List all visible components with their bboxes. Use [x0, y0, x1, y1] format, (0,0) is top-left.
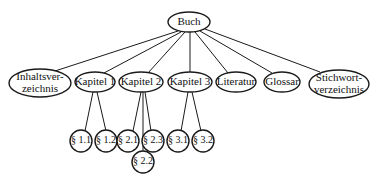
node-section-1-1: § 1.1 [70, 130, 92, 152]
node-kapitel-2: Kapitel 2 [119, 72, 163, 92]
node-section-1-2-label: § 1.2 [96, 134, 116, 145]
node-section-3-1: § 3.1 [167, 130, 189, 152]
node-section-2-1: § 2.1 [117, 130, 139, 152]
node-stichwortverzeichnis-line1: Stichwort- [316, 71, 363, 83]
node-glossar-label: Glossar [265, 75, 299, 87]
node-inhaltsverzeichnis-line2: zeichnis [22, 82, 58, 94]
node-kapitel-3-label: Kapitel 3 [170, 75, 211, 87]
node-section-2-1-label: § 2.1 [118, 134, 138, 145]
node-inhaltsverzeichnis: Inhaltsver- zeichnis [9, 69, 71, 97]
node-section-1-1-label: § 1.1 [71, 134, 91, 145]
node-glossar: Glossar [264, 72, 300, 92]
node-kapitel-1: Kapitel 1 [75, 72, 116, 92]
node-literatur-label: Literatur [217, 75, 256, 87]
node-section-3-2: § 3.2 [192, 130, 214, 152]
node-section-2-2: § 2.2 [132, 151, 154, 173]
node-kapitel-1-label: Kapitel 1 [75, 75, 116, 87]
root-edges [55, 29, 320, 73]
node-section-2-3: § 2.3 [142, 130, 164, 152]
node-section-3-2-label: § 3.2 [193, 134, 213, 145]
node-section-2-2-label: § 2.2 [133, 155, 153, 166]
node-stichwortverzeichnis-line2: verzeichnis [314, 83, 364, 95]
node-buch: Buch [168, 12, 210, 32]
node-buch-label: Buch [177, 15, 201, 27]
book-structure-tree: Buch Inhaltsver- zeichnis Kapitel 1 Kapi… [0, 0, 382, 177]
node-section-2-3-label: § 2.3 [143, 134, 163, 145]
node-literatur: Literatur [216, 72, 256, 92]
node-section-1-2: § 1.2 [95, 130, 117, 152]
node-kapitel-3: Kapitel 3 [168, 72, 212, 92]
node-inhaltsverzeichnis-line1: Inhaltsver- [16, 70, 64, 82]
node-kapitel-2-label: Kapitel 2 [121, 75, 162, 87]
node-stichwortverzeichnis: Stichwort- verzeichnis [309, 70, 369, 98]
node-section-3-1-label: § 3.1 [168, 134, 188, 145]
